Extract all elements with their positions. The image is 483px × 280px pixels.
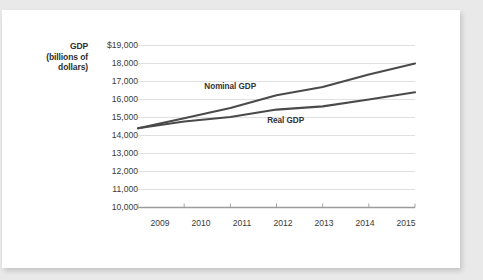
- nominal-gdp-label: Nominal GDP: [204, 82, 256, 91]
- real-gdp-label: Real GDP: [267, 116, 304, 125]
- screenshot-root: GDP (billions of dollars) $19,000 18,000…: [0, 0, 483, 280]
- plot-svg: [0, 0, 483, 280]
- line-chart: GDP (billions of dollars) $19,000 18,000…: [0, 0, 483, 280]
